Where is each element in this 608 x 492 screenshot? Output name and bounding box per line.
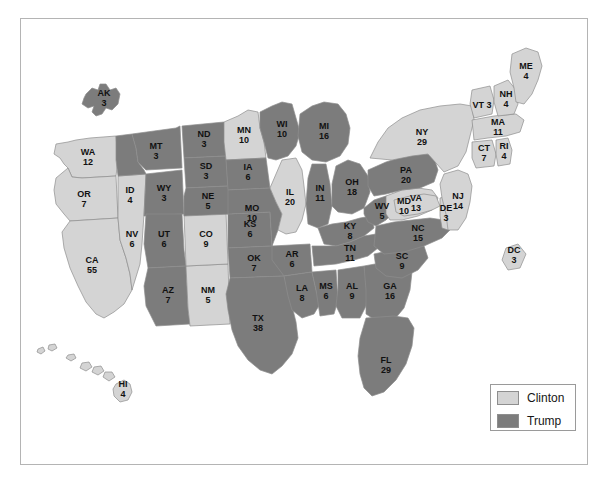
state-votes-ak: 3 <box>101 98 106 108</box>
state-code-va: VA <box>410 193 422 203</box>
hawaii-island-3 <box>66 354 76 361</box>
state-votes-tx: 38 <box>253 323 263 333</box>
state-votes-ia: 6 <box>245 172 250 182</box>
state-code-ga: GA <box>383 281 397 291</box>
state-votes-tn: 11 <box>345 253 355 263</box>
state-votes-nj: 14 <box>453 201 463 211</box>
state-votes-mt: 3 <box>153 151 158 161</box>
state-votes-ms: 6 <box>323 291 328 301</box>
state-code-ct: CT <box>478 143 490 153</box>
state-code-ky: KY <box>344 221 357 231</box>
state-code-oh: OH <box>345 177 359 187</box>
state-code-ak: AK <box>98 88 111 98</box>
state-code-ar: AR <box>286 249 299 259</box>
state-code-ok: OK <box>247 253 261 263</box>
state-code-ne: NE <box>202 191 215 201</box>
state-code-mn: MN <box>237 125 251 135</box>
state-votes-nh: 4 <box>503 99 508 109</box>
state-votes-oh: 18 <box>347 187 357 197</box>
state-code-ny: NY <box>416 127 429 137</box>
state-votes-al: 9 <box>349 291 354 301</box>
state-votes-id: 4 <box>127 195 132 205</box>
map-figure: AK3WA12OR7CA55NV6ID4MT3WY3UT6AZ7NM5CO9ND… <box>0 0 608 492</box>
state-votes-ny: 29 <box>417 137 427 147</box>
hawaii-island-4 <box>80 362 92 371</box>
state-votes-ks: 6 <box>247 229 252 239</box>
state-code-tn: TN <box>344 243 356 253</box>
state-votes-ky: 8 <box>347 231 352 241</box>
clinton-swatch <box>497 391 519 405</box>
state-code-id: ID <box>126 185 136 195</box>
state-votes-la: 8 <box>299 293 304 303</box>
state-code-ri: RI <box>500 141 509 151</box>
state-code-nm: NM <box>201 285 215 295</box>
state-code-ca: CA <box>86 255 99 265</box>
state-votes-ar: 6 <box>289 259 294 269</box>
state-votes-ct: 7 <box>481 153 486 163</box>
state-code-il: IL <box>286 187 295 197</box>
hawaii-island-6 <box>103 372 115 381</box>
legend-label-trump: Trump <box>527 414 561 428</box>
hawaii-island-2 <box>48 344 57 351</box>
state-votes-va: 13 <box>411 203 421 213</box>
state-code-ms: MS <box>319 281 333 291</box>
hawaii-island-5 <box>92 366 104 375</box>
state-code-nh: NH <box>500 89 513 99</box>
state-code-mo: MO <box>245 203 260 213</box>
state-code-in: IN <box>316 183 325 193</box>
state-votes-ri: 4 <box>501 151 506 161</box>
state-votes-md: 10 <box>399 206 409 216</box>
state-votes-mi: 16 <box>319 131 329 141</box>
state-votes-mo: 10 <box>247 213 257 223</box>
state-code-wv: WV <box>375 201 390 211</box>
state-code-or: OR <box>77 189 91 199</box>
state-code-tx: TX <box>252 313 264 323</box>
state-votes-ok: 7 <box>251 263 256 273</box>
state-votes-co: 9 <box>203 239 208 249</box>
legend-label-clinton: Clinton <box>527 391 564 405</box>
state-votes-fl: 29 <box>381 365 391 375</box>
map-legend: Clinton Trump <box>490 384 576 431</box>
state-code-me: ME <box>519 61 533 71</box>
state-code-pa: PA <box>400 165 412 175</box>
state-votes-il: 20 <box>285 197 295 207</box>
state-votes-nc: 15 <box>413 233 423 243</box>
state-code-hi: HI <box>119 379 128 389</box>
state-code-wy: WY <box>157 183 172 193</box>
state-votes-nm: 5 <box>205 295 210 305</box>
state-votes-or: 7 <box>81 199 86 209</box>
state-code-al: AL <box>346 281 358 291</box>
state-code-az: AZ <box>162 285 174 295</box>
legend-row-clinton: Clinton <box>497 388 575 408</box>
legend-row-trump: Trump <box>497 411 575 431</box>
state-code-wa: WA <box>81 147 96 157</box>
state-votes-hi: 4 <box>120 389 125 399</box>
trump-swatch <box>497 414 519 428</box>
state-code-ut: UT <box>158 229 170 239</box>
state-votes-ga: 16 <box>385 291 395 301</box>
state-code-md: MD <box>397 196 411 206</box>
state-votes-mn: 10 <box>239 135 249 145</box>
state-votes-in: 11 <box>315 193 325 203</box>
state-votes-de: 3 <box>443 213 448 223</box>
state-code-nv: NV <box>126 229 139 239</box>
state-label-vt: VT 3 <box>472 100 491 110</box>
state-votes-sc: 9 <box>399 261 404 271</box>
state-votes-sd: 3 <box>203 171 208 181</box>
state-votes-wa: 12 <box>83 157 93 167</box>
state-code-co: CO <box>199 229 213 239</box>
state-votes-wy: 3 <box>161 193 166 203</box>
state-code-fl: FL <box>381 355 392 365</box>
state-code-ia: IA <box>244 162 254 172</box>
state-votes-ca: 55 <box>87 265 97 275</box>
state-code-mi: MI <box>319 121 329 131</box>
state-code-nj: NJ <box>452 191 464 201</box>
state-code-nc: NC <box>412 223 425 233</box>
state-code-ma: MA <box>491 117 505 127</box>
state-votes-az: 7 <box>165 295 170 305</box>
state-code-wi: WI <box>277 119 288 129</box>
state-votes-nd: 3 <box>201 139 206 149</box>
hawaii-island-1 <box>37 347 45 354</box>
state-code-sd: SD <box>200 161 213 171</box>
state-code-de: DE <box>440 203 453 213</box>
